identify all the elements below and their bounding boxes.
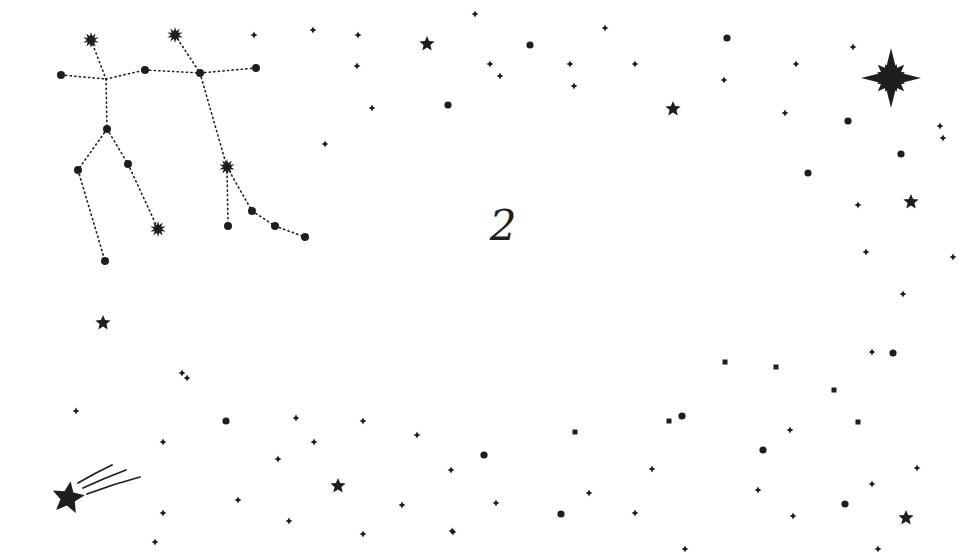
sparkle-icon [311,439,318,446]
square-dot-icon [723,360,728,365]
sparkle-icon [914,465,921,472]
sparkle-icon [793,61,800,68]
dot-icon [222,417,229,424]
dot-icon [480,451,487,458]
dot-icon [897,150,904,157]
sparkle-icon [586,490,593,497]
dot-icon [557,510,564,517]
star-dot-icon [301,233,309,241]
sparkle-icon [448,467,455,474]
sparkle-icon [414,432,421,439]
dotted-line [145,70,200,73]
sparkle-icon [399,502,406,509]
dot-icon [804,169,811,176]
dotted-line [275,226,305,237]
sparkle-icon [360,418,367,425]
star-dot-icon [271,222,279,230]
dot-icon [678,412,685,419]
sparkle-icon [782,110,789,117]
dot-icon [444,101,451,108]
star-dot-icon [101,257,109,265]
sparkle-icon [855,202,862,209]
sparkle-icon [251,32,258,39]
sparkle-icon [369,105,376,112]
dotted-line [106,70,145,79]
star-dot-icon [252,64,260,72]
starburst-icon [83,32,98,48]
sparkle-icon [863,249,870,256]
sparkle-icon [602,25,609,32]
shooting-star-icon [53,465,140,513]
sparkle-icon [850,44,857,51]
starburst-icon [167,27,182,43]
star-icon [898,510,913,524]
large-starburst-icon [861,48,921,108]
sparkle-icon [649,466,656,473]
dotted-line [128,164,158,229]
star-dot-icon [141,66,149,74]
sparkle-icon [472,11,479,18]
dotted-line [106,79,107,129]
sparkle-icon [322,141,329,148]
sparkle-icon [360,531,367,538]
square-dot-icon [573,430,578,435]
sparkle-icon [869,349,876,356]
dotted-line [252,211,275,226]
star-icon [95,315,110,329]
sparkle-icon [184,375,191,382]
sparkle-icon [354,63,361,70]
dotted-line [200,73,227,167]
sparkle-icon [73,408,80,415]
sparkle-icon [632,61,639,68]
dotted-line [227,167,252,211]
dotted-line [107,129,128,164]
sparkle-icon [493,500,500,507]
sparkle-icon [937,123,944,130]
sparkle-icon [940,135,947,142]
dot-icon [526,41,533,48]
star-dot-icon [74,166,82,174]
sparkle-icon [275,456,282,463]
sparkle-icon [755,487,762,494]
star-dot-icon [224,222,232,230]
sparkle-icon [310,27,317,34]
sparkle-icon [567,61,574,68]
star-dot-icon [103,125,111,133]
star-dot-icon [57,71,65,79]
sparkle-icon [160,439,167,446]
sparkle-icon [355,32,362,39]
sparkle-icon [721,77,728,84]
starburst-icon [219,159,234,175]
sparkle-icon [571,83,578,90]
sparkle-icon [950,254,957,261]
star-dot-icon [248,207,256,215]
sparkle-icon [900,291,907,298]
sparkle-icon [160,510,167,517]
sparkle-icon [449,528,456,535]
center-number: 2 [478,196,528,256]
sparkle-icon [632,510,639,517]
sparkle-icon [790,513,797,520]
constellation-stars [57,27,309,265]
dotted-line [200,68,256,73]
dot-icon [841,500,848,507]
sparkle-icon [235,497,242,504]
star-icon [330,478,345,492]
sparkle-icon [497,73,504,80]
star-dot-icon [124,160,132,168]
dotted-line [61,75,106,79]
star-dot-icon [196,69,204,77]
sparkle-icon [286,518,293,525]
sparkle-icon [787,427,794,434]
sparkle-icon [487,61,494,68]
sparkle-icon [875,546,882,552]
square-dot-icon [774,365,779,370]
dotted-line [227,167,228,226]
dot-icon [889,349,896,356]
star-icon [665,101,680,115]
dot-icon [844,117,851,124]
dotted-line [78,170,105,261]
constellation-lines [61,35,305,261]
square-dot-icon [856,420,861,425]
dotted-line [91,40,106,79]
